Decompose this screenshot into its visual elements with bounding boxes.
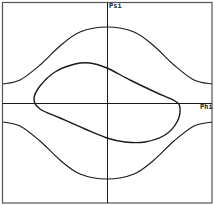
- x-axis-label: Phi: [200, 104, 213, 111]
- y-axis-label: Psi: [109, 3, 122, 10]
- phase-plot: [0, 0, 215, 205]
